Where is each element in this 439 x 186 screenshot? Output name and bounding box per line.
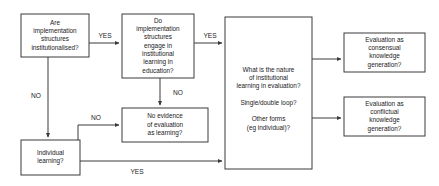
node-text-line: implementation — [136, 25, 180, 33]
node-text-line: Do — [154, 17, 163, 24]
node-text-line: conflictual — [370, 108, 398, 115]
node-text-line: Evaluation as — [365, 36, 403, 43]
node-text-line: What is the nature — [243, 66, 295, 73]
flow-edge-individual-no — [78, 125, 119, 140]
edge-label-engage-no: NO — [173, 89, 183, 96]
node-text-line: engage in — [144, 42, 173, 50]
node-text-line: No evidence — [147, 112, 183, 119]
node-text-line: Individual — [37, 149, 64, 156]
edge-label-institutionalised-yes: YES — [98, 32, 112, 39]
nodes-layer: Areimplementationstructuresinstitutional… — [21, 14, 425, 175]
node-text-line: generation? — [368, 125, 402, 133]
flowchart-diagram: YESYESNONONOYES Areimplementationstructu… — [0, 0, 439, 186]
node-text-line: Single/double loop? — [240, 99, 297, 107]
node-text-line: of institutional — [249, 74, 288, 81]
edge-label-engage-yes: YES — [203, 32, 217, 39]
node-individual-learning: Individuallearning? — [21, 140, 80, 175]
node-text-line: of evaluation — [147, 121, 184, 128]
node-text-line: knowledge — [369, 116, 400, 124]
node-conflictual: Evaluation asconflictualknowledgegenerat… — [344, 97, 425, 136]
node-text-line: Evaluation as — [365, 100, 403, 107]
node-text-line: education? — [142, 67, 174, 74]
node-text-line: consensual — [368, 44, 400, 51]
node-text-line: institutional — [142, 50, 174, 57]
node-text-line: structures — [41, 35, 69, 42]
node-engage: Doimplementationstructuresengage ininsti… — [122, 14, 194, 78]
node-text-line: as learning? — [148, 129, 183, 137]
node-nature-of-learning: What is the natureof institutionallearni… — [225, 17, 312, 169]
node-text-line: learning? — [37, 157, 64, 165]
node-text-line: structures — [144, 33, 172, 40]
node-text-line: institutionalised? — [31, 44, 79, 51]
node-text-line: Are — [50, 19, 60, 26]
node-text-line: implementation — [33, 27, 77, 35]
node-consensual: Evaluation asconsensualknowledgegenerati… — [344, 33, 425, 72]
edge-label-institutionalised-no: NO — [31, 92, 41, 99]
node-text-line: (eg individual)? — [247, 124, 291, 132]
node-text-line: generation? — [368, 61, 402, 69]
edge-label-individual-no: NO — [91, 114, 101, 121]
node-text-line: learning in evaluation? — [237, 82, 301, 90]
node-text-line: knowledge — [369, 52, 400, 60]
edge-label-individual-yes: YES — [130, 168, 144, 175]
node-box-nature-of-learning — [225, 17, 312, 169]
node-text-line: learning in — [143, 58, 173, 66]
flowchart-canvas: YESYESNONONOYES Areimplementationstructu… — [0, 0, 439, 186]
node-no-evidence: No evidenceof evaluationas learning? — [122, 108, 208, 142]
node-institutionalised: Areimplementationstructuresinstitutional… — [21, 14, 89, 57]
node-text-line: Other forms — [252, 115, 286, 122]
